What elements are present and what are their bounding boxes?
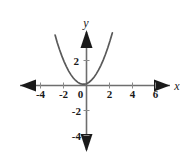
x-tick-label--2: -2	[59, 88, 69, 100]
x-axis-label: x	[173, 79, 180, 93]
x-tick-label-6: 6	[153, 88, 159, 100]
y-tick-label--4: -4	[72, 130, 82, 142]
x-axis-left-arrow-icon	[20, 80, 36, 92]
x-tick-label-2: 2	[107, 88, 113, 100]
graph-figure: -4 -2 0 2 4 6 2 -2 -4 x y	[0, 0, 190, 161]
y-axis-label: y	[82, 16, 89, 30]
origin-label: 0	[78, 88, 84, 100]
y-axis-down-arrow-icon	[81, 134, 93, 152]
x-tick-label--4: -4	[36, 88, 46, 100]
y-tick-label--2: -2	[72, 105, 82, 117]
y-tick-label-2: 2	[74, 55, 80, 67]
x-tick-label-4: 4	[130, 88, 136, 100]
y-axis-up-arrow-icon	[81, 30, 93, 48]
coordinate-plane-svg: -4 -2 0 2 4 6 2 -2 -4 x y	[0, 0, 190, 161]
